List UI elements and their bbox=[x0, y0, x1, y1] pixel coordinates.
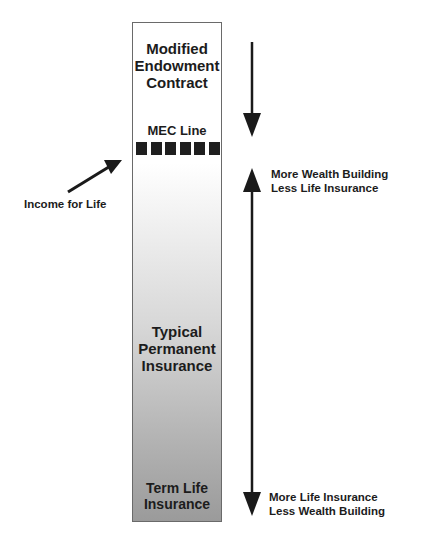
arrow-up-right-icon bbox=[68, 160, 122, 192]
life-insurance-annotation: More Life Insurance Less Wealth Building bbox=[269, 490, 385, 518]
down-arrow-top-icon bbox=[243, 42, 261, 137]
income-for-life-label: Income for Life bbox=[24, 197, 106, 211]
annotation-line: More Wealth Building bbox=[271, 167, 388, 181]
annotation-line: Less Wealth Building bbox=[269, 504, 385, 518]
arrows-layer bbox=[0, 0, 425, 540]
annotation-line: Less Life Insurance bbox=[271, 181, 388, 195]
annotation-line: More Life Insurance bbox=[269, 490, 385, 504]
wealth-building-annotation: More Wealth Building Less Life Insurance bbox=[271, 167, 388, 195]
double-arrow-icon bbox=[243, 168, 261, 516]
